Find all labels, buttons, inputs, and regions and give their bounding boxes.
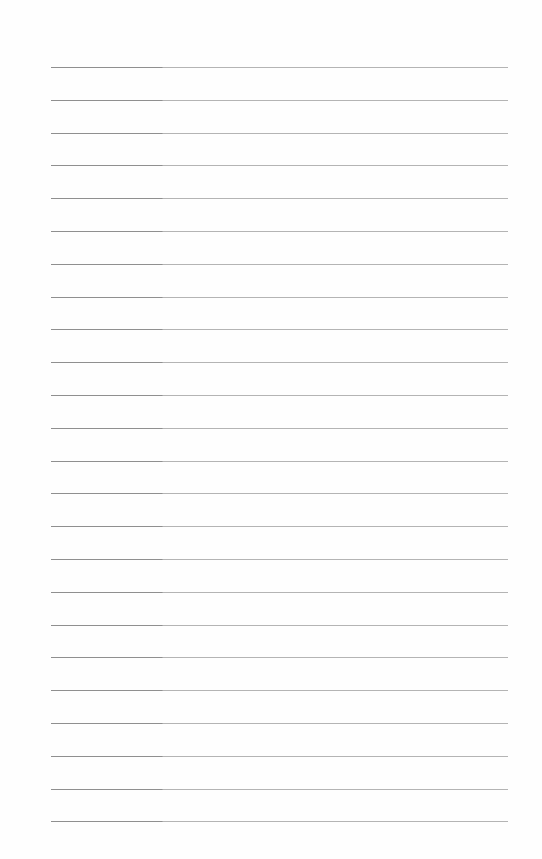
ruled-line (51, 231, 508, 232)
ruled-line (51, 690, 508, 691)
ruled-line (51, 198, 508, 199)
lined-paper-page (0, 0, 542, 859)
ruled-line (51, 395, 508, 396)
ruled-line (51, 493, 508, 494)
ruled-line (51, 526, 508, 527)
ruled-line (51, 100, 508, 101)
ruled-line (51, 756, 508, 757)
ruled-line (51, 362, 508, 363)
ruled-line (51, 789, 508, 790)
ruled-line (51, 428, 508, 429)
ruled-line (51, 821, 508, 822)
ruled-line (51, 592, 508, 593)
ruled-line (51, 559, 508, 560)
ruled-line (51, 264, 508, 265)
ruled-line (51, 165, 508, 166)
ruled-line (51, 461, 508, 462)
ruled-line (51, 329, 508, 330)
ruled-line (51, 297, 508, 298)
ruled-line (51, 67, 508, 68)
ruled-line (51, 133, 508, 134)
ruled-line (51, 625, 508, 626)
ruled-line (51, 723, 508, 724)
ruled-line (51, 657, 508, 658)
